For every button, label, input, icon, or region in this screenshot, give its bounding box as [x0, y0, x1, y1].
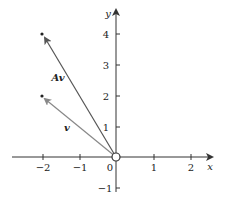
- av-endpoint: [40, 32, 43, 35]
- y-tick-label: 3: [103, 60, 109, 71]
- y-tick-label: 1: [103, 122, 109, 133]
- y-tick-label: 2: [103, 91, 109, 102]
- x-tick-label: −2: [36, 162, 51, 173]
- x-tick-label: 1: [151, 162, 157, 173]
- origin-marker: [112, 153, 120, 161]
- y-axis-label: y: [104, 8, 111, 19]
- av-label: Av: [50, 72, 64, 83]
- x-axis-label: x: [207, 161, 213, 172]
- x-tick-label: 2: [188, 162, 194, 173]
- y-tick-label: 4: [103, 29, 109, 40]
- x-tick-label: 0: [107, 162, 113, 173]
- x-tick-label: −1: [73, 162, 88, 173]
- y-tick-label: −1: [98, 183, 113, 194]
- vector-diagram: −2 −1 0 1 2 x 4 3 2 1 −1 y Av: [0, 0, 225, 201]
- v-label: v: [64, 122, 70, 133]
- v-endpoint: [40, 94, 43, 97]
